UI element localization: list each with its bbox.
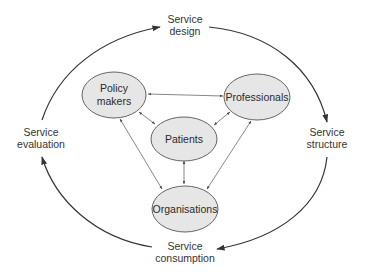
node-organisations: Organisations (152, 186, 218, 232)
service-consumption-line1: Service (167, 240, 202, 252)
service-cycle-diagram: Policy makers Professionals Patients Org… (0, 0, 365, 277)
policy-makers-label-line1: Policy (100, 82, 129, 94)
node-professionals: Professionals (224, 74, 290, 120)
stage-service-consumption: Service consumption (155, 240, 215, 264)
patients-label: Patients (165, 133, 203, 145)
professionals-label: Professionals (225, 91, 288, 103)
stage-service-structure: Service structure (307, 126, 348, 150)
service-evaluation-line2: evaluation (17, 138, 65, 150)
service-structure-line1: Service (309, 126, 344, 138)
link-policy-patients (139, 112, 155, 124)
service-evaluation-line1: Service (23, 126, 58, 138)
policy-makers-label-line2: makers (97, 95, 131, 107)
service-structure-line2: structure (307, 138, 348, 150)
service-design-line2: design (170, 25, 201, 37)
arc-structure-to-consumption (217, 157, 327, 249)
node-patients: Patients (151, 117, 217, 161)
service-consumption-line2: consumption (155, 252, 215, 264)
link-policy-professionals (148, 94, 223, 96)
arc-consumption-to-evaluation (42, 157, 152, 247)
stage-service-design: Service design (167, 13, 202, 37)
node-policy-makers: Policy makers (82, 72, 146, 118)
link-professionals-patients (214, 112, 230, 125)
service-design-line1: Service (167, 13, 202, 25)
organisations-label: Organisations (153, 203, 218, 215)
stage-service-evaluation: Service evaluation (17, 126, 65, 150)
